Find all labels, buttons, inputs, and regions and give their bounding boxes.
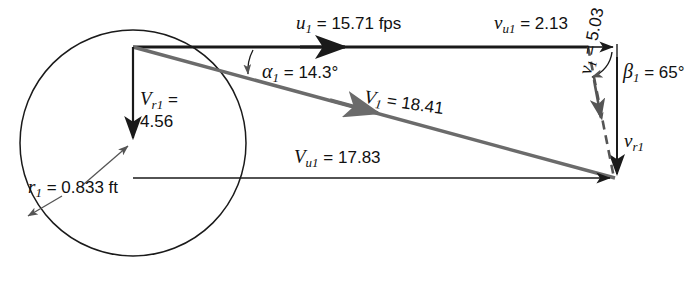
label-beta1: β1 = 65° <box>623 60 685 85</box>
label-vu1: vu1 = 2.13 <box>494 12 568 36</box>
label-vr1: vr1 <box>624 130 644 154</box>
label-alpha1: α1 = 14.3° <box>262 60 338 85</box>
label-Vr1: Vr1 = 4.56 <box>140 88 178 132</box>
relative-velocity-midarrow <box>594 80 601 118</box>
label-r1: r1 = 0.833 ft <box>28 176 118 200</box>
alpha1-angle-arc <box>248 50 253 74</box>
velocity-triangle-figure: u1 = 15.71 fps α1 = 14.3° vu1 = 2.13 β1 … <box>0 0 690 294</box>
label-Vu1: Vu1 = 17.83 <box>294 146 381 170</box>
label-u1: u1 = 15.71 fps <box>296 12 401 36</box>
